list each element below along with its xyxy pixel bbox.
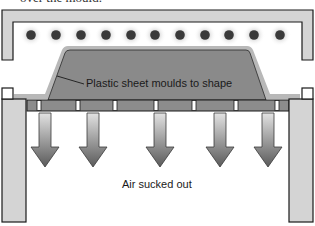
caption-fragment: over the mould.	[20, 0, 102, 6]
vacuum-hole	[234, 101, 238, 111]
heater-icon	[200, 30, 210, 40]
heater-icon	[249, 30, 259, 40]
vacuum-hole	[76, 101, 80, 111]
vacuum-hole	[275, 101, 279, 111]
heater-icon	[224, 30, 234, 40]
heater-icon	[150, 30, 160, 40]
heater-icon	[275, 30, 285, 40]
left-clamp	[2, 88, 13, 99]
arrow-down-icon	[254, 113, 282, 167]
heater-icon	[76, 30, 86, 40]
heater-icon	[175, 30, 185, 40]
arrow-down-icon	[31, 113, 59, 167]
arrow-down-icon	[206, 113, 234, 167]
vacuum-hole	[192, 101, 196, 111]
heater-icon	[26, 30, 36, 40]
vacuum-hole	[37, 101, 41, 111]
sheet-label: Plastic sheet moulds to shape	[86, 77, 232, 89]
air-label: Air sucked out	[122, 178, 192, 190]
arrow-down-icon	[146, 113, 174, 167]
left-pillar	[2, 99, 26, 222]
vacuum-forming-diagram: over the mould. Plastic sheet moulds to …	[0, 0, 315, 226]
heater-icon	[126, 30, 136, 40]
airflow-arrows	[31, 113, 282, 167]
right-pillar	[289, 99, 313, 222]
heater-elements	[20, 24, 291, 46]
heater-icon	[51, 30, 61, 40]
right-clamp	[302, 88, 313, 99]
arrow-down-icon	[79, 113, 107, 167]
vacuum-hole	[154, 101, 158, 111]
mould	[48, 50, 266, 100]
heater-icon	[101, 30, 111, 40]
diagram-canvas	[0, 0, 315, 226]
vacuum-hole	[113, 101, 117, 111]
